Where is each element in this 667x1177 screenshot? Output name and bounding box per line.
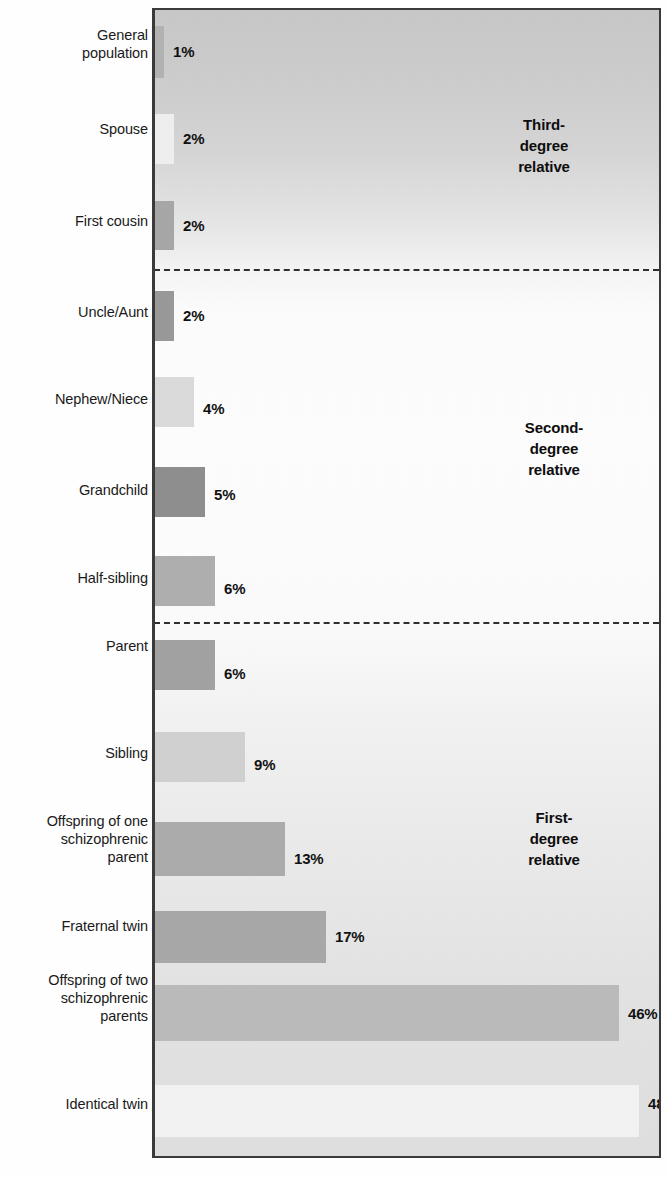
value-label-first-cousin: 2% <box>183 217 204 234</box>
category-label-first-cousin: First cousin <box>2 212 148 230</box>
value-label-fraternal-twin: 17% <box>335 928 364 945</box>
bar-half-sibling <box>154 556 215 606</box>
category-label-fraternal-twin: Fraternal twin <box>2 917 148 935</box>
category-label-parent: Parent <box>2 637 148 655</box>
value-label-offspring-one-parent: 13% <box>294 850 323 867</box>
bar-sibling <box>154 732 245 782</box>
value-label-identical-twin: 48% <box>648 1095 661 1112</box>
value-label-nephew-niece: 4% <box>203 400 224 417</box>
category-label-offspring-two-parents: Offspring of two schizophrenic parents <box>2 971 148 1025</box>
group-divider-second-first <box>154 622 659 624</box>
bar-parent <box>154 640 215 690</box>
bar-offspring-one-parent <box>154 822 285 876</box>
value-label-spouse: 2% <box>183 130 204 147</box>
value-label-offspring-two-parents: 46% <box>628 1005 657 1022</box>
group-divider-third-second <box>154 269 659 271</box>
category-label-nephew-niece: Nephew/Niece <box>2 390 148 408</box>
value-label-grandchild: 5% <box>214 486 235 503</box>
schizophrenia-risk-bar-chart: General population Spouse First cousin U… <box>0 0 667 1177</box>
bar-grandchild <box>154 467 205 517</box>
bar-identical-twin <box>154 1085 639 1137</box>
value-axis-spine <box>152 8 155 1158</box>
value-label-sibling: 9% <box>254 756 275 773</box>
annotation-third-degree-relative: Third- degree relative <box>464 114 624 177</box>
category-label-half-sibling: Half-sibling <box>2 569 148 587</box>
bar-offspring-two-parents <box>154 985 619 1041</box>
category-label-sibling: Sibling <box>2 744 148 762</box>
bar-uncle-aunt <box>154 291 174 341</box>
category-label-identical-twin: Identical twin <box>2 1095 148 1113</box>
category-axis: General population Spouse First cousin U… <box>0 0 148 1177</box>
category-label-offspring-one-parent: Offspring of one schizophrenic parent <box>2 812 148 866</box>
bar-fraternal-twin <box>154 911 326 963</box>
value-label-uncle-aunt: 2% <box>183 307 204 324</box>
bar-spouse <box>154 114 174 164</box>
category-label-uncle-aunt: Uncle/Aunt <box>2 303 148 321</box>
plot-area: 1% 2% 2% 2% 4% 5% 6% 6% 9% 13% 17% 46% 4… <box>152 8 661 1158</box>
value-label-half-sibling: 6% <box>224 580 245 597</box>
bar-first-cousin <box>154 201 174 250</box>
category-label-general-population: General population <box>2 26 148 62</box>
value-label-general-population: 1% <box>173 43 194 60</box>
bar-general-population <box>154 26 164 78</box>
value-label-parent: 6% <box>224 665 245 682</box>
annotation-first-degree-relative: First- degree relative <box>474 807 634 870</box>
category-label-spouse: Spouse <box>2 120 148 138</box>
category-label-grandchild: Grandchild <box>2 481 148 499</box>
annotation-second-degree-relative: Second- degree relative <box>474 417 634 480</box>
bar-nephew-niece <box>154 377 194 427</box>
